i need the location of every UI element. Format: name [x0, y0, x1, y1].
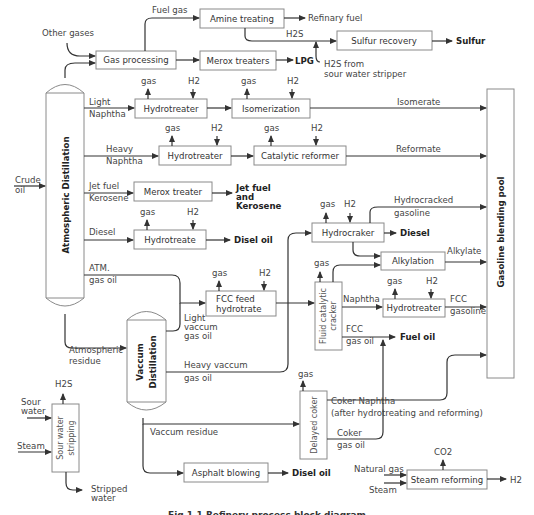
svg-text:Heavy vaccum: Heavy vaccum: [184, 360, 248, 370]
delayed-coker-unit: Delayed coker: [300, 391, 327, 459]
hydrocraker-unit: Hydrocraker: [312, 223, 384, 242]
svg-text:Coker Naphtha: Coker Naphtha: [331, 396, 395, 406]
svg-text:Catalytic reformer: Catalytic reformer: [261, 151, 340, 161]
svg-text:water: water: [21, 406, 46, 416]
svg-text:H2: H2: [187, 207, 199, 217]
sulfur-recovery-unit: Sulfur recovery: [337, 31, 432, 50]
gasoline-blending-pool: Gasoline blending pool: [487, 89, 514, 378]
svg-text:Merox treater: Merox treater: [144, 187, 203, 197]
svg-text:gas: gas: [387, 276, 403, 286]
svg-text:H2: H2: [188, 76, 200, 86]
svg-text:gas: gas: [165, 123, 181, 133]
svg-text:Kerosene: Kerosene: [236, 201, 282, 211]
svg-text:Gas processing: Gas processing: [103, 55, 168, 65]
svg-text:Merox treaters: Merox treaters: [207, 56, 270, 66]
svg-text:H2: H2: [510, 475, 522, 485]
svg-text:gasoline: gasoline: [450, 306, 486, 316]
svg-text:Crude: Crude: [15, 175, 41, 185]
svg-text:H2: H2: [259, 268, 271, 278]
svg-text:Steam reforming: Steam reforming: [411, 475, 483, 485]
amine-treating-unit: Amine treating: [200, 9, 284, 28]
sour-water-stripping-unit: Sour water stripping: [52, 404, 79, 472]
asphalt-blowing-unit: Asphalt blowing: [184, 463, 268, 482]
svg-text:gas: gas: [264, 123, 280, 133]
product-disel-oil-asphalt: Disel oil: [292, 468, 331, 478]
figure-caption: Fig 1.1 Refinery process block diagram: [0, 508, 534, 515]
svg-text:Amine treating: Amine treating: [210, 14, 274, 24]
svg-text:(after hydrotreating and refor: (after hydrotreating and reforming): [331, 408, 483, 418]
merox-treaters-unit: Merox treaters: [200, 51, 276, 70]
isomerization-unit: Isomerization: [232, 99, 310, 118]
vacuum-distillation-label-1: Vaccum: [135, 343, 145, 380]
svg-text:Naphtha: Naphtha: [89, 109, 126, 119]
svg-text:gas oil: gas oil: [346, 336, 374, 346]
svg-text:Refinary fuel: Refinary fuel: [308, 13, 363, 23]
svg-text:H2S: H2S: [55, 379, 72, 389]
svg-text:FCC feed: FCC feed: [216, 294, 255, 304]
svg-text:Atmospheric: Atmospheric: [69, 345, 123, 355]
svg-text:Diesel: Diesel: [89, 227, 115, 237]
svg-text:Reformate: Reformate: [396, 144, 441, 154]
svg-text:hydrotrate: hydrotrate: [216, 304, 261, 314]
gasoline-blending-pool-label: Gasoline blending pool: [496, 176, 506, 287]
svg-text:Isomerization: Isomerization: [242, 104, 300, 114]
svg-text:H2S: H2S: [286, 29, 303, 39]
svg-text:Asphalt blowing: Asphalt blowing: [192, 468, 260, 478]
svg-text:Steam: Steam: [369, 485, 397, 495]
svg-text:Hydrocracked: Hydrocracked: [394, 195, 453, 205]
svg-text:Steam: Steam: [17, 441, 45, 451]
svg-text:Hydrocraker: Hydrocraker: [322, 228, 375, 238]
fcc-feed-hydrotrate-unit: FCC feed hydrotrate: [206, 291, 276, 316]
svg-text:Coker: Coker: [337, 428, 362, 438]
svg-text:H2: H2: [287, 76, 299, 86]
svg-text:Sour water: Sour water: [56, 415, 65, 459]
svg-text:FCC: FCC: [346, 324, 363, 334]
svg-text:residue: residue: [69, 356, 101, 366]
svg-text:stripping: stripping: [67, 420, 76, 455]
svg-text:CO2: CO2: [434, 447, 452, 457]
svg-text:H2: H2: [344, 199, 356, 209]
hydrotreater-fcc-unit: Hydrotreater: [383, 299, 445, 317]
svg-text:sour water stripper: sour water stripper: [324, 69, 407, 79]
product-diesel: Diesel: [400, 228, 430, 238]
svg-text:Hydrotreate: Hydrotreate: [144, 235, 196, 245]
alkylation-unit: Alkylation: [381, 252, 445, 270]
svg-text:gas: gas: [140, 207, 156, 217]
gas-processing-unit: Gas processing: [96, 51, 176, 69]
svg-text:cracker: cracker: [329, 301, 338, 331]
svg-text:Hydrotreater: Hydrotreater: [143, 104, 199, 114]
product-disel-oil: Disel oil: [234, 235, 273, 245]
product-lpg: LPG: [295, 56, 314, 66]
product-fuel-oil: Fuel oil: [400, 332, 435, 342]
product-sulfur: Sulfur: [456, 36, 486, 46]
svg-text:Other gases: Other gases: [42, 28, 95, 38]
svg-text:Naphtha: Naphtha: [343, 294, 380, 304]
svg-text:FCC: FCC: [450, 294, 467, 304]
svg-text:Sulfur recovery: Sulfur recovery: [351, 36, 417, 46]
vacuum-distillation-column: Vaccum Distillation: [127, 312, 166, 411]
svg-text:gas: gas: [241, 76, 257, 86]
svg-text:gas oil: gas oil: [184, 373, 212, 383]
hydrotreater-heavy-naphtha-unit: Hydrotreater: [159, 146, 231, 165]
fluid-catalytic-cracker-unit: Fluid catalytic cracker: [315, 282, 342, 350]
hydrotreate-diesel-unit: Hydrotreate: [134, 230, 206, 249]
svg-text:Hydrotreater: Hydrotreater: [167, 151, 223, 161]
merox-treater-unit: Merox treater: [134, 182, 212, 201]
refinery-flow-diagram: Atmospheric Distillation Vaccum Distilla…: [0, 0, 534, 515]
svg-text:H2: H2: [426, 276, 438, 286]
svg-text:H2: H2: [311, 123, 323, 133]
vacuum-distillation-label-2: Distillation: [148, 335, 158, 388]
hydrotreater-light-naphtha-unit: Hydrotreater: [135, 99, 207, 118]
svg-text:Fuel gas: Fuel gas: [152, 5, 188, 15]
svg-text:Light: Light: [89, 97, 111, 107]
svg-text:Heavy: Heavy: [106, 144, 133, 154]
svg-text:gas: gas: [320, 199, 336, 209]
svg-text:Hydrotreater: Hydrotreater: [386, 303, 442, 313]
steam-reforming-unit: Steam reforming: [407, 470, 487, 489]
svg-text:H2: H2: [211, 123, 223, 133]
svg-text:Vaccum residue: Vaccum residue: [150, 427, 218, 437]
svg-text:Naphtha: Naphtha: [106, 156, 143, 166]
svg-text:Delayed coker: Delayed coker: [310, 396, 319, 454]
svg-text:gasoline: gasoline: [394, 208, 430, 218]
svg-text:gas: gas: [141, 76, 157, 86]
